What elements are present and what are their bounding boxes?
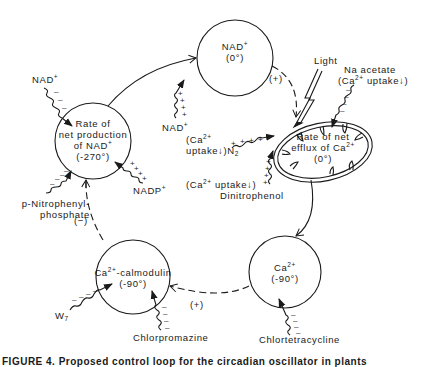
effector-nad-bottom: NAD+ bbox=[162, 122, 188, 133]
chlortetracycline-effector-arrow bbox=[279, 299, 290, 335]
edge-label-ca-to-calmodulin: (+) bbox=[190, 299, 204, 310]
effector-nadp: NADP+ bbox=[133, 185, 166, 196]
svg-text:–: – bbox=[340, 106, 345, 115]
svg-text:–: – bbox=[72, 295, 77, 304]
svg-text:+: + bbox=[182, 110, 187, 119]
svg-text:+: + bbox=[142, 174, 147, 183]
effector-na-acetate: Na acetate (Ca2+ uptake↓) bbox=[338, 64, 408, 86]
figure-caption: FIGURE 4. Proposed control loop for the … bbox=[2, 356, 367, 367]
svg-text:+: + bbox=[249, 136, 254, 145]
effector-chlorpromazine: Chlorpromazine bbox=[133, 332, 208, 343]
effector-dinitrophenol: (Ca2+ uptake↓) Dinitrophenol bbox=[186, 179, 284, 201]
light-bolt-icon bbox=[294, 69, 322, 127]
effector-nitrophenylphosphate: p-Nitrophenyl- phosphate bbox=[18, 198, 90, 220]
effector-light: Light bbox=[314, 55, 338, 66]
svg-text:–: – bbox=[165, 323, 170, 332]
edge-label-nad-to-efflux: (+) bbox=[269, 73, 283, 84]
svg-text:–: – bbox=[64, 166, 69, 175]
effector-nad-left: NAD+ bbox=[32, 74, 58, 85]
svg-text:–: – bbox=[79, 292, 84, 301]
ca-efflux-node-label: Rate of net efflux of Ca2+ (0°) bbox=[283, 131, 363, 164]
effector-w7: W7 bbox=[55, 310, 69, 321]
calmodulin-node-label: Ca2+-calmodulin (-90°) bbox=[93, 267, 173, 289]
nad-node-label: NAD+ (0°) bbox=[205, 41, 265, 63]
arrow-efflux-to-ca bbox=[296, 180, 313, 236]
ca-node-label: Ca2+ (-90°) bbox=[255, 262, 315, 284]
chlorpromazine-effector-arrow bbox=[152, 291, 161, 330]
svg-text:+: + bbox=[258, 135, 263, 144]
svg-text:+: + bbox=[178, 89, 183, 98]
arrow-ca-to-calmodulin bbox=[170, 286, 249, 293]
svg-text:–: – bbox=[86, 289, 91, 298]
svg-text:+: + bbox=[240, 137, 245, 146]
effector-n2: (Ca2+ uptake↓)N2 bbox=[186, 134, 239, 156]
svg-text:–: – bbox=[62, 103, 67, 112]
nad-production-node-label: Rate of net production of NAD+ (-270°) bbox=[53, 118, 133, 162]
effector-chlortetracycline: Chlortetracycline bbox=[259, 334, 340, 345]
